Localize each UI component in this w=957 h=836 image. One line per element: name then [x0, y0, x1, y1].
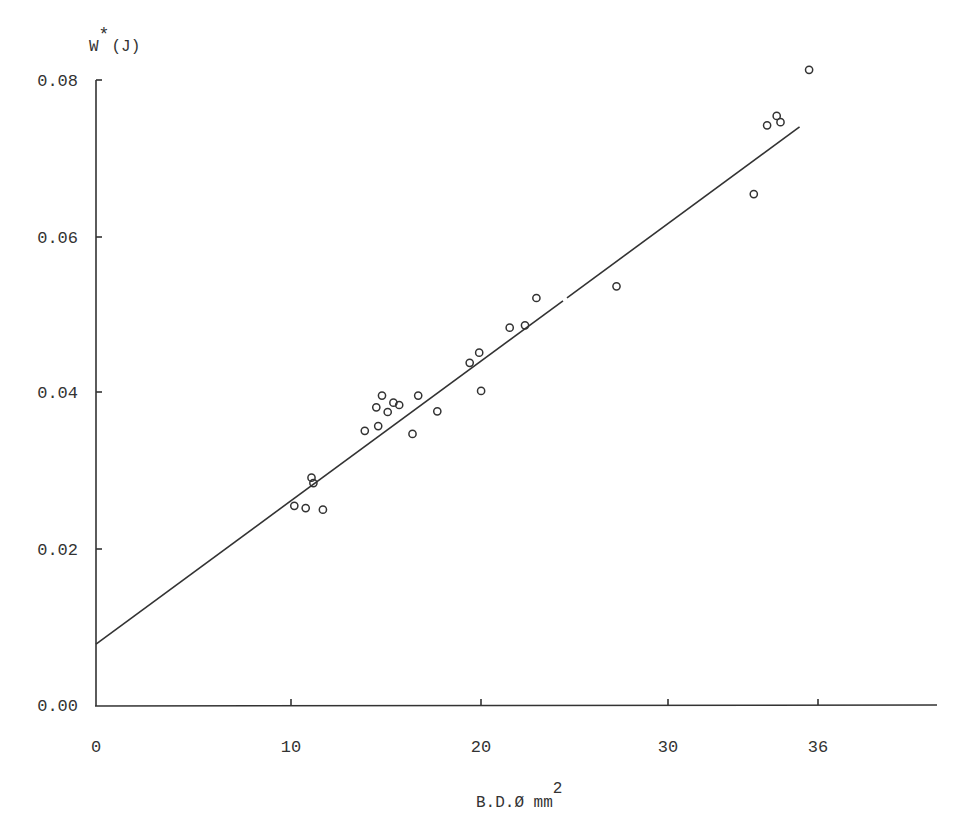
data-point-circle-icon [750, 191, 757, 198]
data-points [291, 66, 813, 513]
data-point-circle-icon [764, 122, 771, 129]
x-tick-label: 10 [281, 738, 301, 757]
data-point-circle-icon [373, 404, 380, 411]
scatter-chart: 0.000.020.040.060.08 010203036 W*(J) B.D… [0, 0, 957, 836]
data-point-circle-icon [291, 502, 298, 509]
x-tick-label: 36 [808, 738, 828, 757]
y-tick-label: 0.02 [37, 541, 78, 560]
regression-line-segment [96, 301, 563, 644]
data-point-circle-icon [415, 392, 422, 399]
data-point-circle-icon [375, 423, 382, 430]
y-tick-label: 0.00 [37, 697, 78, 716]
y-axis-title-star: * [99, 25, 110, 45]
data-point-circle-icon [409, 430, 416, 437]
y-tick-label: 0.06 [37, 229, 78, 248]
data-point-circle-icon [466, 359, 473, 366]
regression-line-segment [567, 127, 800, 298]
x-axis: 010203036 [91, 699, 937, 757]
regression-line [96, 127, 800, 644]
x-axis-title: B.D.Ø mm2 [476, 780, 562, 812]
y-axis-title-main: W [89, 38, 99, 56]
y-tick-label: 0.08 [37, 72, 78, 91]
data-point-circle-icon [506, 324, 513, 331]
data-point-circle-icon [319, 506, 326, 513]
x-axis-title-main: B.D.Ø mm [476, 794, 553, 812]
data-point-circle-icon [378, 392, 385, 399]
data-point-circle-icon [302, 505, 309, 512]
y-axis-title-unit: (J) [111, 38, 140, 56]
data-point-circle-icon [476, 349, 483, 356]
data-point-circle-icon [361, 427, 368, 434]
x-tick-label: 0 [91, 738, 101, 757]
data-point-circle-icon [384, 408, 391, 415]
x-axis-title-sup: 2 [553, 780, 563, 798]
figure-caption-cropped [20, 830, 440, 836]
x-tick-label: 30 [658, 738, 678, 757]
data-point-circle-icon [434, 408, 441, 415]
y-axis: 0.000.020.040.060.08 [37, 72, 102, 716]
data-point-circle-icon [533, 294, 540, 301]
data-point-circle-icon [806, 66, 813, 73]
y-axis-title: W*(J) [89, 25, 140, 56]
y-tick-label: 0.04 [37, 384, 78, 403]
data-point-circle-icon [613, 283, 620, 290]
data-point-circle-icon [478, 387, 485, 394]
x-tick-label: 20 [471, 738, 491, 757]
data-point-circle-icon [777, 119, 784, 126]
